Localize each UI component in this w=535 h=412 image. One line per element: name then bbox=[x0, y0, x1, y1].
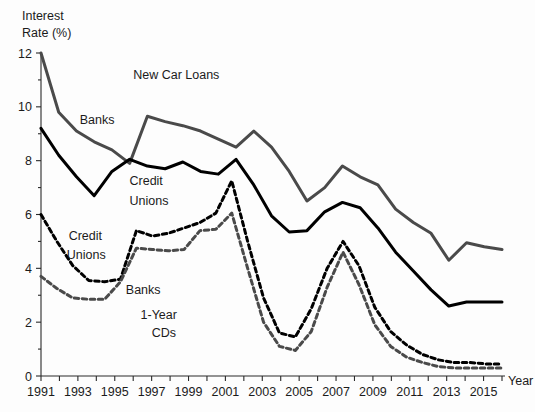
y-axis-title-line1: Interest bbox=[22, 9, 64, 23]
y-tick-labels: 024681012 bbox=[18, 47, 32, 384]
annotation-1-year: 1-Year bbox=[141, 308, 177, 322]
y-tick-label: 12 bbox=[18, 47, 32, 61]
annotation-new-car-loans-credit: Credit bbox=[130, 174, 164, 188]
y-tick-label: 0 bbox=[25, 370, 32, 384]
x-tick-label: 2003 bbox=[248, 385, 276, 399]
x-tick-label: 2011 bbox=[396, 385, 423, 399]
annotation-cds-banks: Banks bbox=[126, 283, 161, 297]
series-line-0 bbox=[41, 53, 502, 260]
y-tick-label: 2 bbox=[25, 316, 32, 330]
x-tick-label: 1997 bbox=[138, 385, 166, 399]
chart-series-group bbox=[41, 53, 502, 368]
annotation-cds: CDs bbox=[152, 326, 176, 340]
x-tick-label: 2015 bbox=[470, 385, 498, 399]
y-tick-label: 4 bbox=[25, 262, 32, 276]
x-tick-label: 2005 bbox=[285, 385, 313, 399]
x-tick-label: 2001 bbox=[211, 385, 239, 399]
x-tick-labels: 1991199319951997199920012003200520072009… bbox=[27, 385, 497, 399]
chart-figure: 024681012 199119931995199719992001200320… bbox=[0, 0, 535, 412]
x-tick-label: 2013 bbox=[433, 385, 461, 399]
x-tick-label: 1995 bbox=[101, 385, 129, 399]
annotation-new-car-loans: New Car Loans bbox=[133, 68, 219, 82]
interest-rate-line-chart: 024681012 199119931995199719992001200320… bbox=[0, 0, 535, 412]
y-tick-label: 10 bbox=[18, 100, 32, 114]
y-tick-label: 8 bbox=[25, 154, 32, 168]
x-axis-title: Year bbox=[508, 374, 533, 388]
x-tick-label: 2007 bbox=[322, 385, 350, 399]
annotation-new-car-loans-unions: Unions bbox=[130, 194, 169, 208]
annotation-new-car-loans-banks: Banks bbox=[80, 113, 115, 127]
x-tick-label: 2009 bbox=[359, 385, 387, 399]
x-tick-label: 1991 bbox=[27, 385, 55, 399]
y-axis-title-line2: Rate (%) bbox=[22, 26, 71, 40]
y-tick-label: 6 bbox=[25, 208, 32, 222]
x-tick-label: 1999 bbox=[175, 385, 203, 399]
annotation-cds-unions: Unions bbox=[67, 248, 106, 262]
x-tick-label: 1993 bbox=[64, 385, 92, 399]
annotation-cds-credit: Credit bbox=[69, 229, 103, 243]
